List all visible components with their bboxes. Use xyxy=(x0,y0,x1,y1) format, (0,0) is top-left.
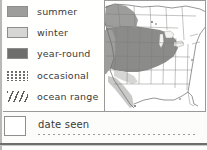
date-seen-label: date seen xyxy=(38,119,89,130)
date-seen-row: date seen xyxy=(3,114,203,140)
occasional-swatch-icon xyxy=(7,70,28,81)
legend-label-ocean-range: ocean range xyxy=(37,91,99,102)
legend-item-occasional[interactable]: occasional xyxy=(7,68,89,82)
year-round-swatch-icon xyxy=(7,48,28,59)
legend-item-winter[interactable]: winter xyxy=(7,25,68,39)
legend-item-summer[interactable]: summer xyxy=(7,4,77,18)
legend-map-card: summer winter year-round occasional ocea… xyxy=(3,0,203,112)
legend-label-winter: winter xyxy=(37,27,68,38)
field-guide-range-map-page: summer winter year-round occasional ocea… xyxy=(0,0,207,150)
ocean-range-swatch-icon xyxy=(7,91,28,102)
date-seen-write-in-line[interactable] xyxy=(38,134,198,135)
legend-item-ocean-range[interactable]: ocean range xyxy=(7,89,99,103)
page-bottom-rule-shadow xyxy=(0,145,207,146)
date-seen-checkbox[interactable] xyxy=(4,116,26,136)
map-svg xyxy=(104,0,206,112)
range-legend: summer winter year-round occasional ocea… xyxy=(7,2,103,110)
legend-label-occasional: occasional xyxy=(37,70,89,81)
legend-label-summer: summer xyxy=(37,6,77,17)
legend-label-year-round: year-round xyxy=(37,48,91,59)
winter-swatch-icon xyxy=(7,27,28,38)
legend-item-year-round[interactable]: year-round xyxy=(7,46,91,60)
north-america-map[interactable] xyxy=(104,0,206,112)
summer-swatch-icon xyxy=(7,6,28,17)
page-left-rule xyxy=(0,0,2,150)
